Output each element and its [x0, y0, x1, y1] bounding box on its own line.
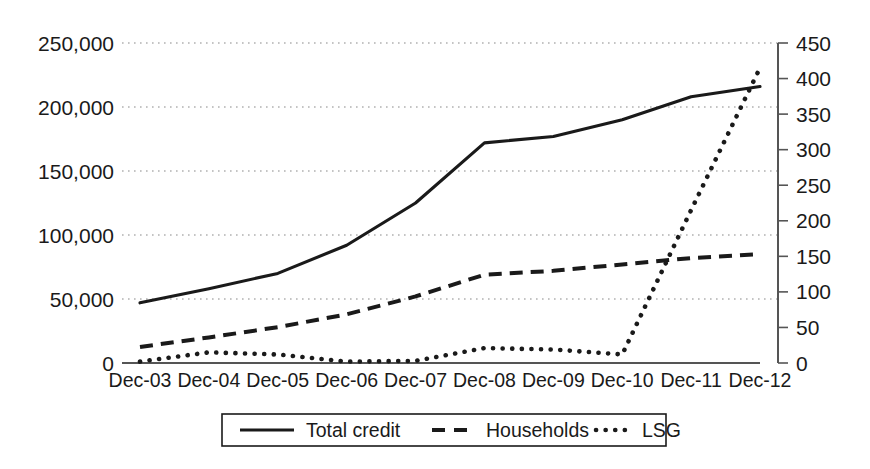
x-axis-tick-label: Dec-03 — [109, 369, 172, 391]
right-axis-tick-label: 0 — [796, 352, 808, 375]
chart-legend: Total creditHouseholdsLSG — [222, 414, 681, 446]
left-axis-tick-label: 250,000 — [38, 32, 114, 55]
right-axis-tick-label: 350 — [796, 103, 831, 126]
x-axis-tick-label: Dec-10 — [591, 369, 654, 391]
left-axis-tick-label: 50,000 — [50, 288, 114, 311]
right-axis-tick-label: 50 — [796, 316, 819, 339]
line-chart: 050,000100,000150,000200,000250,000 0501… — [0, 0, 870, 469]
chart-container: 050,000100,000150,000200,000250,000 0501… — [0, 0, 870, 469]
x-axis-tick-label: Dec-12 — [729, 369, 792, 391]
x-axis-tick-label: Dec-11 — [660, 369, 721, 391]
left-axis-tick-label: 100,000 — [38, 224, 114, 247]
left-axis-tick-label: 200,000 — [38, 96, 114, 119]
right-axis-tick-label: 250 — [796, 174, 831, 197]
right-axis-tick-label: 100 — [796, 280, 831, 303]
series-line-total-credit — [140, 87, 760, 303]
right-axis-tick-label: 200 — [796, 209, 831, 232]
x-axis-tick-label: Dec-06 — [315, 369, 378, 391]
series-line-households — [140, 254, 760, 347]
legend-label-lsg: LSG — [642, 419, 681, 441]
x-axis-tick-label: Dec-08 — [453, 369, 516, 391]
left-axis-tick-label: 150,000 — [38, 160, 114, 183]
x-axis: Dec-03Dec-04Dec-05Dec-06Dec-07Dec-08Dec-… — [109, 369, 792, 391]
legend-label-total-credit: Total credit — [306, 419, 401, 441]
x-axis-tick-label: Dec-07 — [384, 369, 447, 391]
series-line-lsg — [140, 68, 760, 362]
legend-label-households: Households — [486, 419, 589, 441]
left-axis: 050,000100,000150,000200,000250,000 — [38, 32, 760, 375]
right-axis-tick-label: 300 — [796, 138, 831, 161]
x-axis-tick-label: Dec-04 — [177, 369, 240, 391]
right-axis-tick-label: 150 — [796, 245, 831, 268]
data-series-group — [140, 68, 760, 362]
x-axis-tick-label: Dec-05 — [246, 369, 309, 391]
right-axis-tick-label: 450 — [796, 32, 831, 55]
right-axis: 050100150200250300350400450 — [778, 32, 831, 375]
x-axis-tick-label: Dec-09 — [522, 369, 585, 391]
right-axis-tick-label: 400 — [796, 67, 831, 90]
